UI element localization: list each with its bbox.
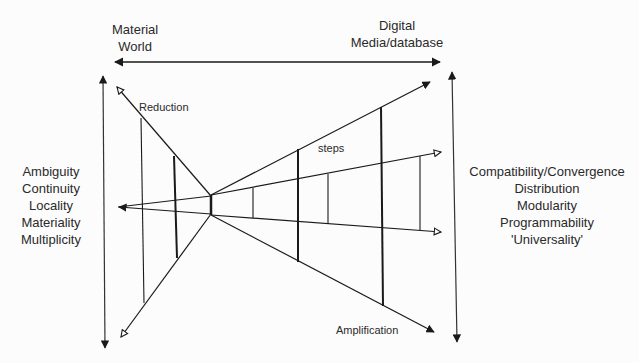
material-label-line1: Material <box>112 21 158 38</box>
property-materiality: Materiality <box>12 214 90 231</box>
amplification-mid-lower-arrow <box>211 215 441 232</box>
property-multiplicity: Multiplicity <box>12 231 90 248</box>
reduction-label: Reduction <box>139 99 189 116</box>
material-properties-list: Ambiguity Continuity Locality Materialit… <box>12 163 90 248</box>
digital-label-line1: Digital <box>342 17 452 34</box>
amplification-upper-arrow <box>211 82 430 195</box>
property-locality: Locality <box>12 197 90 214</box>
material-world-label: Material World <box>112 21 158 55</box>
reduction-step-1 <box>141 118 144 303</box>
property-universality: 'Universality' <box>455 231 639 248</box>
reduction-lower-arrow <box>121 214 211 337</box>
left-center-arrow-upper <box>118 196 211 207</box>
amplification-mid-upper-arrow <box>211 152 441 195</box>
reduction-step-2 <box>174 156 177 258</box>
property-modularity: Modularity <box>455 197 639 214</box>
amplification-label: Amplification <box>336 322 398 339</box>
left-center-arrow-lower <box>119 207 211 214</box>
diagram-canvas: Material World Digital Media/database Am… <box>0 0 639 363</box>
digital-label-line2: Media/database <box>342 34 452 51</box>
digital-media-label: Digital Media/database <box>342 17 452 51</box>
property-compatibility: Compatibility/Convergence <box>455 163 639 180</box>
digital-properties-list: Compatibility/Convergence Distribution M… <box>455 163 639 248</box>
property-ambiguity: Ambiguity <box>12 163 90 180</box>
step-line-d <box>381 107 383 306</box>
steps-label: steps <box>318 140 344 157</box>
amplification-lower-arrow <box>211 215 434 332</box>
property-programmability: Programmability <box>455 214 639 231</box>
property-continuity: Continuity <box>12 180 90 197</box>
material-label-line2: World <box>112 38 158 55</box>
property-distribution: Distribution <box>455 180 639 197</box>
left-vertical-axis <box>103 76 105 348</box>
